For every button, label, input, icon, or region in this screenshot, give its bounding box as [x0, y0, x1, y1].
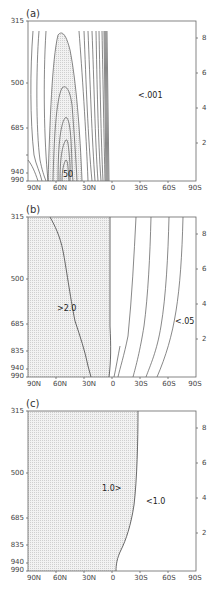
annotation-lt-05: <.05 [175, 317, 194, 326]
y-tick-940: 940 [2, 364, 24, 372]
y-tick-315: 315 [2, 17, 24, 25]
y-tick-315: 315 [2, 213, 24, 221]
x-tick-0: 0 [101, 574, 125, 582]
right-tick-2: 2 [202, 529, 206, 537]
x-tick-60n: 60N [48, 574, 72, 582]
x-tick-60s: 60S [157, 574, 181, 582]
panel-a-plot [0, 0, 213, 196]
x-tick-30s: 30S [129, 184, 153, 192]
x-tick-90n: 90N [22, 574, 46, 582]
y-tick-835: 835 [2, 347, 24, 355]
x-tick-0: 0 [101, 380, 125, 388]
panel-b-plot [0, 196, 213, 392]
x-tick-30n: 30N [77, 380, 101, 388]
x-tick-0: 0 [101, 184, 125, 192]
x-tick-90n: 90N [22, 380, 46, 388]
x-tick-30s: 30S [129, 380, 153, 388]
y-tick-940: 940 [2, 168, 24, 176]
y-tick-990: 990 [2, 176, 24, 184]
y-tick-500: 500 [2, 79, 24, 87]
right-tick-8: 8 [202, 34, 206, 42]
x-tick-90s: 90S [183, 184, 207, 192]
x-tick-60s: 60S [157, 184, 181, 192]
right-tick-4: 4 [202, 300, 206, 308]
annotation-lt-1-0: <1.0 [146, 497, 165, 506]
panel-c: (c) 315 500 685 835 940 990 8 6 4 2 90N [0, 390, 213, 589]
y-tick-940: 940 [2, 558, 24, 566]
panel-a: (a) [0, 0, 213, 196]
y-tick-990: 990 [2, 566, 24, 574]
right-tick-6: 6 [202, 265, 206, 273]
x-tick-90s: 90S [183, 574, 207, 582]
y-tick-685: 685 [2, 124, 24, 132]
x-tick-30s: 30S [129, 574, 153, 582]
y-tick-990: 990 [2, 372, 24, 380]
right-tick-8: 8 [202, 424, 206, 432]
right-tick-2: 2 [202, 335, 206, 343]
y-tick-500: 500 [2, 469, 24, 477]
annotation-lt-001: <.001 [138, 91, 163, 100]
right-tick-6: 6 [202, 459, 206, 467]
x-tick-30n: 30N [77, 574, 101, 582]
right-tick-4: 4 [202, 494, 206, 502]
x-tick-90n: 90N [22, 184, 46, 192]
annotation-1-0-gt: 1.0> [102, 484, 121, 493]
y-tick-500: 500 [2, 275, 24, 283]
y-tick-685: 685 [2, 320, 24, 328]
x-tick-60n: 60N [48, 184, 72, 192]
x-tick-60s: 60S [157, 380, 181, 388]
right-tick-8: 8 [202, 230, 206, 238]
annotation-50: 50 [63, 170, 73, 179]
right-tick-6: 6 [202, 69, 206, 77]
annotation-gt-2: >2.0 [57, 304, 76, 313]
y-tick-685: 685 [2, 514, 24, 522]
y-tick-315: 315 [2, 407, 24, 415]
x-tick-60n: 60N [48, 380, 72, 388]
y-tick-835: 835 [2, 541, 24, 549]
x-tick-30n: 30N [77, 184, 101, 192]
panel-b: (b) [0, 196, 213, 392]
right-tick-2: 2 [202, 139, 206, 147]
right-tick-4: 4 [202, 104, 206, 112]
x-tick-90s: 90S [183, 380, 207, 388]
